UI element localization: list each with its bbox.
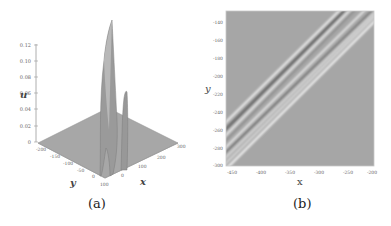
- z-tick-label: 0.10: [20, 58, 31, 64]
- secondary-peak: [121, 91, 128, 170]
- surface-plot-svg: 0 0.02 0.04 0.06 0.08 0.10 0.12 u -200: [0, 0, 195, 226]
- y-tick-label: 0: [92, 174, 95, 179]
- z-axis-label: u: [20, 89, 27, 100]
- x-tick-label: -300: [314, 170, 324, 175]
- y-tick-label: -280: [213, 146, 223, 151]
- y-tick-label: 100: [100, 182, 109, 187]
- y-tick-label: -150: [50, 154, 60, 159]
- x-axis-label: x: [139, 176, 147, 187]
- x-tick-label: -350: [285, 170, 295, 175]
- y-tick-label: -200: [36, 147, 46, 152]
- x-tick-label: 300: [177, 144, 186, 149]
- x-tick-label: -200: [367, 170, 377, 175]
- caption-a: (a): [88, 196, 106, 211]
- y-tick-label: -180: [213, 56, 223, 61]
- x-tick-label: -400: [256, 170, 266, 175]
- y-tick-label: -50: [77, 168, 84, 173]
- y-tick-label: -240: [213, 110, 223, 115]
- density-plot-svg: -140 -160 -180 -200 -220 -240 -260 -280 …: [195, 0, 391, 226]
- y-axis-label: y: [69, 177, 77, 188]
- y-tick-label: -160: [213, 38, 223, 43]
- z-tick-label: 0.08: [20, 74, 31, 80]
- z-tick-label: 0.12: [20, 42, 31, 48]
- y-axis-ticks: -140 -160 -180 -200 -220 -240 -260 -280 …: [213, 20, 223, 168]
- y-tick-label: -220: [213, 92, 223, 97]
- y-tick-label: -200: [213, 74, 223, 79]
- z-tick-label: 0.02: [20, 123, 31, 129]
- x-tick-label: -450: [227, 170, 237, 175]
- z-tick-label: 0: [28, 139, 31, 145]
- panel-a-surface-plot: 0 0.02 0.04 0.06 0.08 0.10 0.12 u -200: [0, 0, 195, 226]
- z-tick-label: 0.04: [20, 106, 31, 112]
- x-axis-ticks: -450 -400 -350 -300 -250 -200: [227, 170, 377, 175]
- x-tick-label: -250: [343, 170, 353, 175]
- x-axis-label: x: [297, 176, 303, 187]
- y-tick-label: -300: [213, 163, 223, 168]
- x-tick-label: 0: [121, 173, 124, 178]
- x-tick-label: 200: [157, 155, 166, 160]
- y-axis-label: y: [204, 83, 211, 94]
- y-tick-label: -260: [213, 128, 223, 133]
- panel-b-density-plot: -140 -160 -180 -200 -220 -240 -260 -280 …: [195, 0, 391, 226]
- x-tick-label: 100: [138, 164, 147, 169]
- y-tick-label: -140: [213, 20, 223, 25]
- caption-b: (b): [293, 196, 311, 211]
- y-tick-label: -100: [63, 161, 73, 166]
